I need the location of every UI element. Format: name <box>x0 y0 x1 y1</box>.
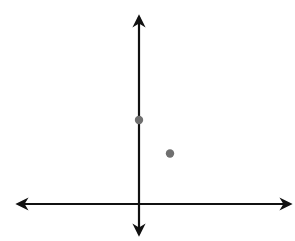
point-1-4-8 <box>166 149 174 157</box>
point-0-8 <box>135 116 143 124</box>
exponential-graph <box>0 0 295 241</box>
